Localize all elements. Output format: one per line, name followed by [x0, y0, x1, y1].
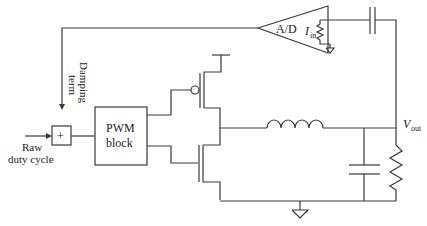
buck-converter-diagram: A/D I in Damping term Raw duty cycle + P…	[0, 0, 427, 226]
nmos-transistor	[147, 128, 220, 200]
svg-text:term: term	[67, 75, 79, 96]
output-capacitor	[349, 128, 380, 201]
raw-label: Raw	[22, 141, 42, 153]
duty-cycle-label: duty cycle	[8, 153, 54, 165]
pwm-label: PWM	[106, 121, 135, 135]
inductor	[220, 120, 396, 128]
current-label-sub: in	[310, 31, 316, 40]
ad-label: A/D	[276, 22, 297, 36]
ad-converter: A/D I in	[258, 6, 370, 53]
raw-duty-input: Raw duty cycle	[8, 133, 54, 165]
load-resistor	[390, 128, 402, 201]
damping-term-label: Damping term	[67, 62, 90, 103]
block-label: block	[106, 136, 133, 150]
ground-rail	[220, 201, 396, 218]
coupling-capacitor	[370, 7, 396, 128]
plus-sign: +	[57, 129, 64, 143]
pwm-block: PWM block	[95, 107, 147, 165]
vout-label: V out	[403, 117, 422, 133]
pmos-transistor	[147, 55, 230, 128]
summing-junction: +	[52, 126, 95, 145]
svg-text:out: out	[411, 124, 422, 133]
